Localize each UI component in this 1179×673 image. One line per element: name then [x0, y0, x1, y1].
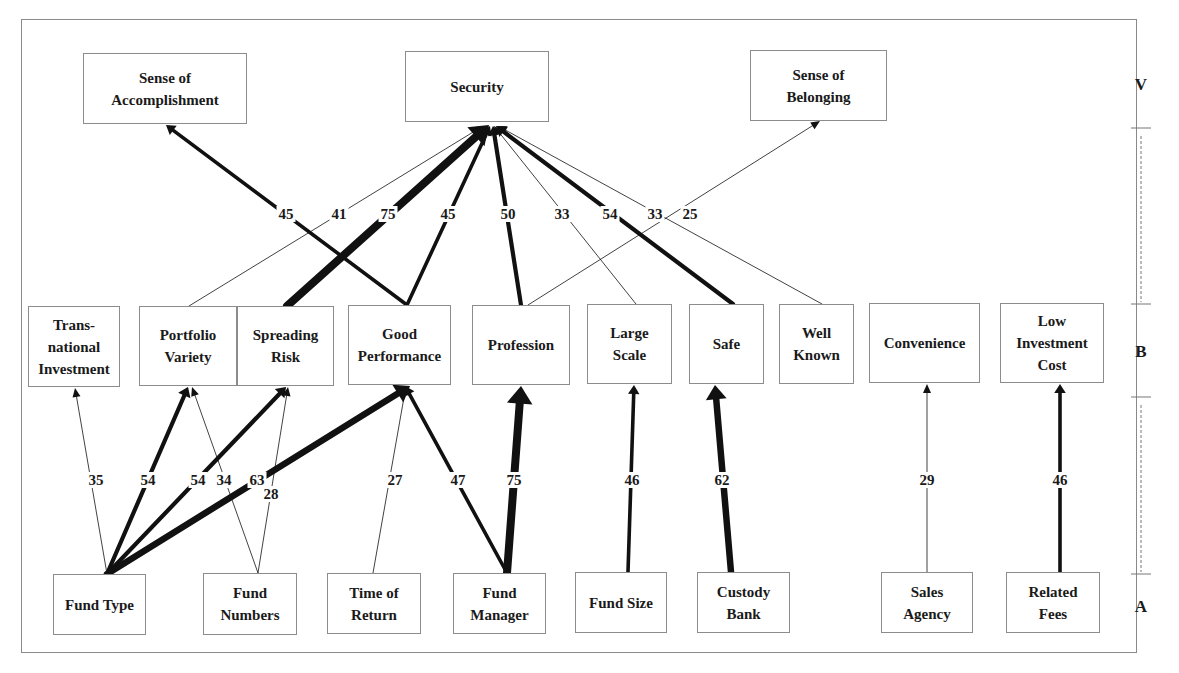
- node-label: Low Investment Cost: [1016, 310, 1088, 376]
- node-fundmanager: Fund Manager: [453, 573, 546, 634]
- node-security: Security: [405, 51, 549, 122]
- edge-value-label: 46: [1051, 472, 1070, 488]
- level-bracket: [1131, 397, 1151, 574]
- edge-value-label: 54: [189, 472, 208, 488]
- node-label: Good Performance: [358, 323, 441, 367]
- edge-value-label: 46: [623, 472, 642, 488]
- node-performance: Good Performance: [348, 305, 451, 385]
- node-label: Spreading Risk: [253, 324, 319, 368]
- edge-value-label: 25: [681, 206, 700, 222]
- node-label: Fund Type: [65, 594, 134, 616]
- node-label: Security: [450, 76, 503, 98]
- node-label: Fund Manager: [470, 582, 528, 626]
- arrowhead-icon: [1054, 384, 1066, 393]
- edge-value-label: 75: [505, 472, 524, 488]
- node-portfolio: Portfolio Variety: [139, 306, 237, 386]
- node-label: Sense of Accomplishment: [111, 67, 219, 111]
- edge-profession-to-belonging: [528, 121, 820, 305]
- node-spreading: Spreading Risk: [237, 306, 334, 386]
- node-label: Related Fees: [1028, 581, 1077, 625]
- level-bracket: [1131, 128, 1151, 304]
- arrowhead-icon: [628, 385, 640, 394]
- arrowhead-icon: [73, 388, 81, 398]
- arrowhead-icon: [191, 387, 199, 397]
- node-label: Fund Numbers: [220, 582, 279, 626]
- node-belonging: Sense of Belonging: [750, 50, 887, 121]
- node-salesagency: Sales Agency: [881, 572, 973, 633]
- node-wellknown: Well Known: [779, 304, 854, 384]
- node-label: Profession: [488, 334, 554, 356]
- node-label: Convenience: [884, 332, 966, 354]
- node-convenience: Convenience: [869, 303, 980, 383]
- node-label: Fund Size: [589, 592, 653, 614]
- node-label: Safe: [713, 333, 741, 355]
- arrowhead-icon: [706, 385, 727, 400]
- level-label-A: A: [1126, 597, 1156, 617]
- edge-value-label: 33: [553, 206, 572, 222]
- node-profession: Profession: [472, 305, 570, 385]
- node-safe: Safe: [689, 304, 764, 384]
- edge-value-label: 27: [386, 472, 405, 488]
- edge-value-label: 45: [277, 206, 296, 222]
- edge-value-label: 47: [449, 472, 468, 488]
- node-relatedfees: Related Fees: [1006, 572, 1100, 633]
- node-lowcost: Low Investment Cost: [1000, 303, 1104, 383]
- node-transnational: Trans- national Investment: [28, 306, 120, 387]
- arrowhead-icon: [810, 121, 820, 129]
- edge-value-label: 34: [215, 472, 234, 488]
- level-label-V: V: [1126, 75, 1156, 95]
- node-label: Custody Bank: [717, 581, 770, 625]
- edge-value-label: 45: [439, 206, 458, 222]
- level-label-B: B: [1126, 342, 1156, 362]
- node-label: Portfolio Variety: [160, 324, 217, 368]
- node-label: Well Known: [793, 322, 840, 366]
- node-label: Sales Agency: [903, 581, 951, 625]
- node-label: Trans- national Investment: [38, 314, 110, 380]
- edge-value-label: 50: [499, 206, 518, 222]
- node-label: Sense of Belonging: [786, 64, 850, 108]
- edge-value-label: 75: [379, 206, 398, 222]
- node-label: Large Scale: [610, 322, 648, 366]
- edge-value-label: 41: [330, 206, 349, 222]
- node-fundnumbers: Fund Numbers: [203, 573, 297, 635]
- node-custody: Custody Bank: [697, 572, 790, 633]
- node-accomplishment: Sense of Accomplishment: [83, 53, 247, 124]
- edge-value-label: 29: [918, 472, 937, 488]
- edge-value-label: 54: [139, 472, 158, 488]
- edge-value-label: 62: [713, 472, 732, 488]
- node-timereturn: Time of Return: [327, 573, 421, 634]
- arrowhead-icon: [923, 384, 931, 393]
- node-label: Time of Return: [349, 582, 398, 626]
- node-fundtype: Fund Type: [53, 574, 146, 635]
- edge-value-label: 33: [646, 206, 665, 222]
- edge-value-label: 35: [87, 472, 106, 488]
- arrowhead-icon: [507, 386, 533, 405]
- edge-value-label: 54: [601, 206, 620, 222]
- edge-value-label: 28: [262, 486, 281, 502]
- node-largescale: Large Scale: [587, 304, 672, 384]
- node-fundsize: Fund Size: [575, 572, 667, 633]
